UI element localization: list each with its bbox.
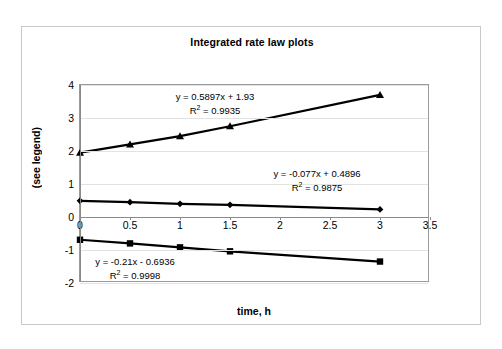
trendline-annotation-diamond: y = -0.077x + 0.4896 R2 = 0.9875: [237, 167, 397, 195]
y-axis-title: (see legend): [30, 127, 42, 188]
y-axis-tick-label: 2: [68, 145, 74, 157]
x-axis-tick-label: 2: [277, 219, 283, 231]
data-point-diamond: [177, 200, 184, 207]
y-axis-tick-label: 1: [68, 178, 74, 190]
y-axis-tick-label: 4: [68, 79, 74, 91]
x-axis-tick-label: 0.5: [123, 219, 138, 231]
y-axis-line: [80, 85, 81, 281]
chart-container: Integrated rate law plots 43210-1-200.51…: [21, 26, 481, 325]
trendline-annotation-square: y = -0.21x - 0.6936 R2 = 0.9998: [60, 255, 210, 283]
gridline-horizontal: [80, 118, 428, 119]
data-point-square: [127, 240, 133, 246]
data-point-square: [377, 258, 383, 264]
x-axis-line: [80, 217, 428, 218]
x-axis-tick-label: 1: [177, 219, 183, 231]
r-squared-triangle: R2 = 0.9935: [140, 104, 290, 118]
trendline-equation-square: y = -0.21x - 0.6936: [60, 255, 210, 269]
y-axis-tick-label: 0: [68, 211, 74, 223]
trendline-annotation-triangle: y = 0.5897x + 1.93 R2 = 0.9935: [140, 90, 290, 118]
x-axis-tick-label: 1.5: [223, 219, 238, 231]
data-point-diamond: [227, 201, 234, 208]
y-axis-tick-label: 3: [68, 112, 74, 124]
gridline-horizontal: [80, 85, 428, 86]
trendline-equation-triangle: y = 0.5897x + 1.93: [140, 90, 290, 104]
data-point-diamond: [127, 199, 134, 206]
gridline-horizontal: [80, 250, 428, 251]
trendline-equation-diamond: y = -0.077x + 0.4896: [237, 167, 397, 181]
data-point-diamond: [377, 206, 384, 213]
chart-title: Integrated rate law plots: [22, 36, 482, 48]
x-axis-title: time, h: [79, 305, 429, 317]
x-axis-tick-label: 2.5: [323, 219, 338, 231]
gridline-horizontal: [80, 151, 428, 152]
x-axis-tick-label: 3: [377, 219, 383, 231]
x-axis-tick-label: 3.5: [423, 219, 438, 231]
r-squared-diamond: R2 = 0.9875: [237, 181, 397, 195]
gridline-horizontal: [80, 283, 428, 284]
r-squared-square: R2 = 0.9998: [60, 269, 210, 283]
